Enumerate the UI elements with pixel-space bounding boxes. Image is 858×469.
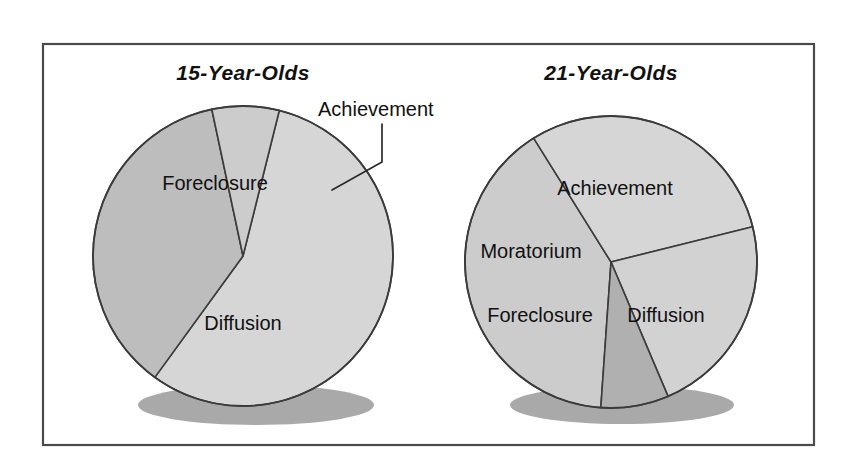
slice-label-achievement: Achievement: [557, 177, 673, 199]
chart-title-21-year-olds: 21-Year-Olds: [543, 61, 678, 84]
pie-chart-21-year-olds: 21-Year-Olds AchievementDiffusionForeclo…: [465, 61, 757, 424]
slice-label-moratorium: Moratorium: [480, 240, 581, 262]
pie-chart-figure: 15-Year-Olds DiffusionForeclosure Achiev…: [0, 0, 858, 469]
slice-label-foreclosure: Foreclosure: [487, 304, 593, 326]
slice-label-diffusion: Diffusion: [204, 312, 281, 334]
pie-chart-15-year-olds: 15-Year-Olds DiffusionForeclosure Achiev…: [93, 61, 434, 425]
slice-label-diffusion: Diffusion: [627, 304, 704, 326]
achievement-callout-label: Achievement: [318, 98, 434, 120]
chart-title-15-year-olds: 15-Year-Olds: [176, 61, 310, 84]
slice-label-foreclosure: Foreclosure: [162, 172, 268, 194]
pie-slices-15-year-olds: [93, 106, 393, 406]
figure-root: 15-Year-Olds DiffusionForeclosure Achiev…: [0, 0, 858, 469]
